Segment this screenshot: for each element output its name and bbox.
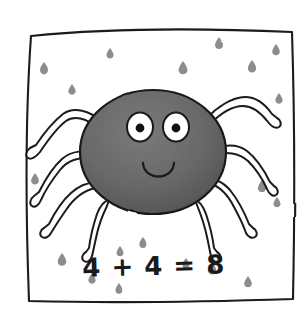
spider-pupil-right [172, 124, 181, 133]
spider-illustration: 4 + 4 = 8 [0, 0, 308, 321]
spider-abdomen [80, 90, 226, 214]
equation-caption: 4 + 4 = 8 [82, 249, 226, 283]
illustration-canvas: 4 + 4 = 8 [0, 0, 308, 321]
spider-pupil-left [136, 124, 145, 133]
spider-body [80, 90, 226, 214]
